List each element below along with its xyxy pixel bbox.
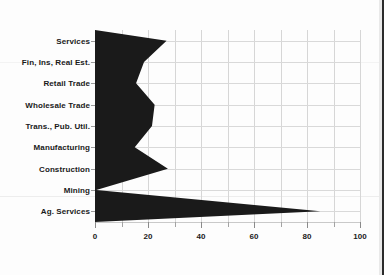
y-axis-label: Manufacturing (0, 143, 90, 152)
y-axis-label: Mining (0, 186, 90, 195)
x-axis-tick-label: 100 (353, 232, 366, 241)
y-axis-label: Ag. Services (0, 207, 90, 216)
chart-root: ServicesFin, Ins, Real Est.Retail TradeW… (0, 0, 384, 275)
x-axis-tick-label: 60 (250, 232, 259, 241)
y-axis-tick (91, 105, 95, 106)
y-axis-tick (91, 126, 95, 127)
x-axis-tick-label: 80 (303, 232, 312, 241)
x-axis-tick-label: 0 (93, 232, 97, 241)
y-axis-label: Trans., Pub. Util. (0, 122, 90, 131)
x-axis-tick (122, 222, 123, 227)
x-axis-tick (254, 222, 255, 228)
y-axis-label: Retail Trade (0, 79, 90, 88)
y-axis-label: Services (0, 37, 90, 46)
y-axis-tick (91, 190, 95, 191)
scan-edge-artifact (379, 0, 382, 275)
y-axis-label: Construction (0, 165, 90, 174)
series-fill (95, 30, 320, 222)
x-axis-tick (307, 222, 308, 228)
y-axis-label: Wholesale Trade (0, 101, 90, 110)
x-axis-tick (228, 222, 229, 227)
x-axis-tick-label: 40 (197, 232, 206, 241)
x-axis-tick (148, 222, 149, 228)
x-axis-tick (360, 222, 361, 228)
y-axis-tick (91, 147, 95, 148)
y-axis-tick (91, 169, 95, 170)
gridline-vertical (360, 30, 361, 222)
y-axis-tick (91, 83, 95, 84)
y-axis-tick (91, 41, 95, 42)
plot-area (95, 30, 360, 222)
x-axis-tick (281, 222, 282, 227)
x-axis-tick (334, 222, 335, 227)
y-axis-label: Fin, Ins, Real Est. (0, 58, 90, 67)
x-axis-tick (201, 222, 202, 228)
x-axis-tick (95, 222, 96, 228)
y-axis-category-labels: ServicesFin, Ins, Real Est.Retail TradeW… (0, 30, 90, 222)
series-area-shape (95, 30, 360, 222)
x-axis-tick (175, 222, 176, 227)
y-axis-tick (91, 211, 95, 212)
x-axis-tick-label: 20 (144, 232, 153, 241)
y-axis-tick (91, 62, 95, 63)
